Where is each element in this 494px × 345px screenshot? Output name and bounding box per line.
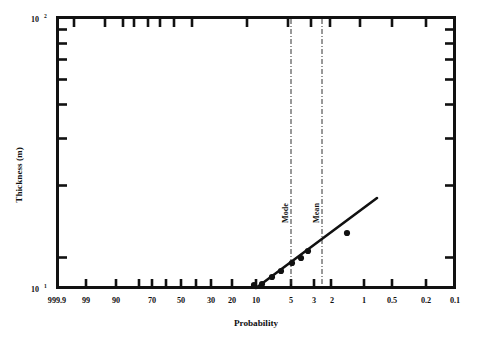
- x-ticklabel-70: 70: [148, 296, 156, 305]
- x-axis-ticks-top: [58, 18, 455, 31]
- data-point: [278, 268, 284, 274]
- mode-label: Mode: [281, 203, 290, 223]
- x-ticklabel-99: 99: [82, 296, 90, 305]
- data-point: [269, 274, 275, 280]
- y-axis-tick-labels: 10 2 10 1: [31, 13, 47, 295]
- data-point: [298, 255, 304, 261]
- y-ticklabel-lower-base: 10: [31, 285, 39, 294]
- data-point: [305, 248, 311, 254]
- x-ticklabel-2: 2: [330, 296, 334, 305]
- data-point: [289, 260, 295, 266]
- x-axis-title: Probability: [234, 318, 279, 328]
- x-ticklabel-0.1: 0.1: [450, 296, 460, 305]
- y-ticklabel-lower-exp: 1: [44, 283, 47, 289]
- x-axis-tick-labels: 999.9 99 90 70 50 30 20 10 5 3 2 1 0.5 0…: [48, 296, 460, 305]
- x-ticklabel-10: 10: [252, 296, 260, 305]
- data-point: [259, 281, 265, 287]
- y-axis-ticks-right: [441, 18, 455, 288]
- x-ticklabel-1: 1: [362, 296, 366, 305]
- x-ticklabel-50: 50: [177, 296, 185, 305]
- data-point: [344, 230, 350, 236]
- x-ticklabel-30: 30: [207, 296, 215, 305]
- chart-svg: 10 2 10 1 Thickness (m): [0, 0, 494, 345]
- y-ticklabel-upper-base: 10: [31, 15, 39, 24]
- data-point: [251, 282, 257, 288]
- x-ticklabel-0.2: 0.2: [421, 296, 431, 305]
- axes-border: [58, 18, 455, 288]
- x-ticklabel-20: 20: [228, 296, 236, 305]
- y-axis-ticks-left: [57, 18, 71, 288]
- reference-lines: [291, 19, 322, 286]
- plot-frame: [58, 18, 455, 288]
- x-ticklabel-90: 90: [112, 296, 120, 305]
- x-ticklabel-5: 5: [289, 296, 293, 305]
- y-ticklabel-upper-exp: 2: [44, 13, 47, 19]
- x-ticklabel-3: 3: [312, 296, 316, 305]
- x-ticklabel-0.5: 0.5: [387, 296, 397, 305]
- mean-label: Mean: [312, 203, 321, 223]
- y-axis-title: Thickness (m): [14, 147, 24, 202]
- x-ticklabel-999.9: 999.9: [48, 296, 66, 305]
- reference-line-labels: Mode Mean: [281, 203, 321, 223]
- probability-plot-figure: 10 2 10 1 Thickness (m): [0, 0, 494, 345]
- y-axis-title-group: Thickness (m): [14, 147, 24, 202]
